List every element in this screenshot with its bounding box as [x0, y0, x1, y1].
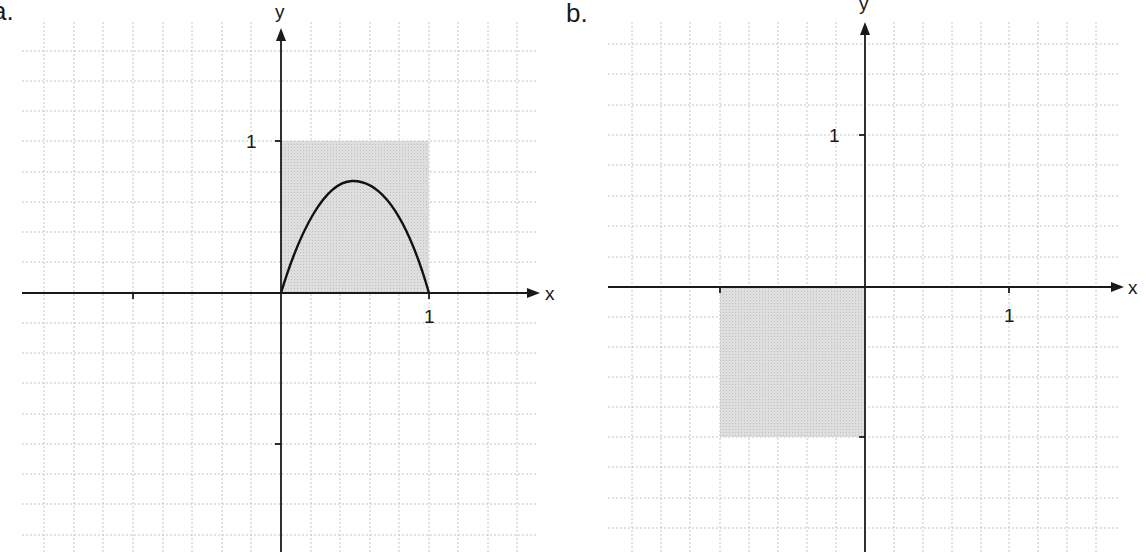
panel-b-y-arrow-icon — [860, 22, 870, 35]
panel-b-shaded-region — [720, 287, 865, 437]
panel-a: a. x y 1 1 — [0, 0, 555, 552]
panel-b-label: b. — [566, 0, 588, 28]
panel-b-y-axis-label: y — [859, 0, 869, 14]
panel-a-axes — [22, 38, 530, 552]
panel-a-y-axis-label: y — [275, 1, 285, 22]
panel-a-y-tick-label: 1 — [246, 131, 257, 152]
panel-b-x-axis-label: x — [1128, 277, 1138, 298]
figure-canvas: a. x y 1 1 — [0, 0, 1146, 552]
panel-a-grid — [22, 22, 537, 552]
panel-a-label: a. — [0, 0, 14, 26]
panel-a-x-tick-label: 1 — [424, 306, 435, 327]
panel-b-x-arrow-icon — [1111, 282, 1124, 292]
panel-a-x-axis-label: x — [545, 283, 555, 304]
panel-b: b. x y 1 1 — [566, 0, 1138, 552]
panel-b-y-tick-label: 1 — [829, 125, 840, 146]
panel-b-x-tick-label: 1 — [1004, 305, 1015, 326]
panel-a-shaded-region — [281, 141, 429, 293]
panel-a-x-arrow-icon — [527, 288, 540, 298]
panel-a-y-arrow-icon — [276, 28, 286, 41]
